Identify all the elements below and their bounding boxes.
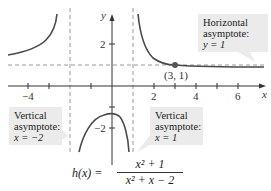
callout-horizontal-line2: asymptote: [203, 28, 263, 39]
callout-horizontal-asymptote: Horizontal asymptote: y = 1 [198, 14, 268, 52]
function-formula: h(x) = x² + 1 x² + x − 2 [72, 158, 192, 188]
callout-right-line2: asymptote: [155, 121, 198, 132]
callout-left-line2: asymptote: [14, 121, 57, 132]
y-tick-label-2: 2 [100, 38, 106, 50]
point-label: (3, 1) [164, 69, 188, 82]
callout-vertical-asymptote-right: Vertical asymptote: x = 1 [150, 107, 203, 145]
x-axis-label: x [261, 88, 267, 100]
y-tick-label-neg2: −2 [94, 122, 106, 134]
callout-horizontal-line1: Horizontal [203, 17, 263, 28]
callout-right-line3: x = 1 [155, 132, 198, 143]
x-tick-label-6: 6 [235, 90, 241, 102]
curve-left-branch [8, 14, 57, 55]
callout-horizontal-tail [238, 52, 255, 62]
x-tick-label-4: 4 [193, 90, 199, 102]
formula-lhs: h(x) = [72, 166, 102, 181]
callout-vertical-asymptote-left: Vertical asymptote: x = −2 [9, 107, 62, 145]
y-axis-label: y [100, 9, 106, 21]
callout-horizontal-line3: y = 1 [203, 39, 263, 50]
point-3-1 [172, 62, 178, 68]
x-tick-label-neg4: −4 [22, 90, 34, 102]
x-tick-label-2: 2 [151, 90, 157, 102]
formula-denominator: x² + x − 2 [117, 174, 183, 187]
formula-fraction: x² + 1 x² + x − 2 [117, 158, 183, 187]
callout-left-line3: x = −2 [14, 132, 57, 143]
callout-left-tail [62, 130, 68, 140]
callout-right-tail [137, 135, 150, 152]
formula-numerator: x² + 1 [117, 158, 183, 171]
callout-right-line1: Vertical [155, 110, 198, 121]
y-axis-arrow-icon [110, 14, 115, 21]
callout-left-line1: Vertical [14, 110, 57, 121]
